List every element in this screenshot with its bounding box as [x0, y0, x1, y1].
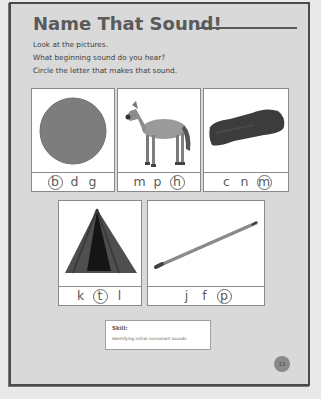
picture-card-ball: b d g: [31, 88, 115, 192]
letter-choice[interactable]: f: [199, 289, 211, 303]
letter-choice[interactable]: n: [239, 175, 251, 189]
page-title: Name That Sound!: [33, 13, 222, 34]
letter-choice[interactable]: g: [87, 175, 99, 189]
letter-choice[interactable]: l: [114, 289, 126, 303]
instruction-line-3: Circle the letter that makes that sound.: [33, 66, 177, 75]
pencil-image: [148, 201, 264, 286]
letter-choice-circled[interactable]: b: [48, 175, 63, 190]
tent-image: [59, 201, 141, 286]
letter-choice-circled[interactable]: h: [170, 175, 185, 190]
skill-box: Skill: Identifying initial consonant sou…: [105, 320, 211, 350]
picture-card-horse: m p h: [117, 88, 201, 192]
letter-choices: c n m: [204, 172, 288, 191]
letter-choice[interactable]: d: [69, 175, 81, 189]
picture-card-mitten: c n m: [203, 88, 289, 192]
instruction-line-2: What beginning sound do you hear?: [33, 53, 165, 62]
letter-choice-circled[interactable]: m: [257, 175, 272, 190]
letter-choice-circled[interactable]: p: [217, 289, 232, 304]
skill-text: Identifying initial consonant sounds: [112, 336, 186, 341]
skill-label: Skill:: [112, 325, 127, 331]
horse-image: [118, 89, 200, 172]
page-number-badge: 13: [274, 356, 290, 372]
worksheet-page: Name That Sound! Look at the pictures. W…: [9, 2, 310, 386]
letter-choices: k t l: [59, 286, 141, 305]
letter-choice[interactable]: k: [75, 289, 87, 303]
instruction-line-1: Look at the pictures.: [33, 40, 108, 49]
picture-card-tent: k t l: [58, 200, 142, 306]
letter-choice-circled[interactable]: t: [93, 289, 108, 304]
letter-choice[interactable]: j: [181, 289, 193, 303]
mitten-image: [204, 89, 288, 172]
letter-choice[interactable]: m: [134, 175, 146, 189]
letter-choices: b d g: [32, 172, 114, 191]
letter-choice[interactable]: p: [152, 175, 164, 189]
letter-choices: j f p: [148, 286, 264, 305]
page-number: 13: [279, 361, 285, 367]
name-write-line: [197, 27, 297, 29]
letter-choice[interactable]: c: [221, 175, 233, 189]
letter-choices: m p h: [118, 172, 200, 191]
picture-card-pencil: j f p: [147, 200, 265, 306]
ball-image: [32, 89, 114, 172]
